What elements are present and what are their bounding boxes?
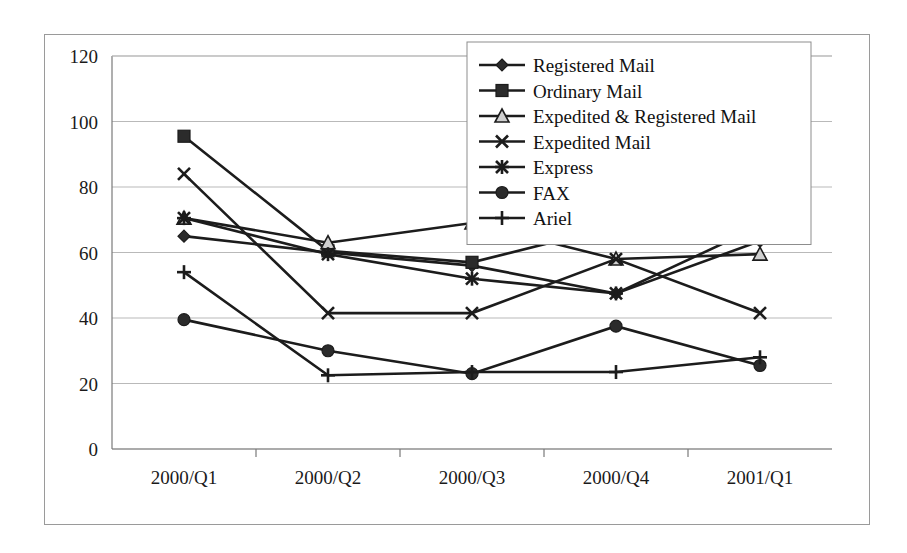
legend-label: Ordinary Mail bbox=[533, 81, 642, 102]
y-tick-label: 80 bbox=[79, 177, 98, 198]
line-chart: 0204060801001202000/Q12000/Q22000/Q32000… bbox=[0, 0, 907, 553]
data-point bbox=[609, 286, 623, 300]
chart-legend: Registered MailOrdinary MailExpedited & … bbox=[467, 42, 811, 245]
x-tick-label: 2001/Q1 bbox=[727, 467, 794, 488]
data-point bbox=[178, 168, 190, 180]
data-point bbox=[177, 211, 191, 225]
data-point bbox=[178, 230, 190, 242]
legend-label: FAX bbox=[533, 183, 570, 204]
y-tick-label: 60 bbox=[79, 243, 98, 264]
data-point bbox=[178, 314, 190, 326]
legend-marker-circle bbox=[496, 187, 508, 199]
y-tick-label: 0 bbox=[89, 439, 99, 460]
legend-label: Expedited & Registered Mail bbox=[533, 106, 756, 127]
x-tick-label: 2000/Q2 bbox=[295, 467, 362, 488]
y-tick-label: 40 bbox=[79, 308, 98, 329]
legend-marker-star bbox=[495, 160, 509, 174]
x-axis-labels: 2000/Q12000/Q22000/Q32000/Q42001/Q1 bbox=[151, 449, 794, 488]
x-tick-label: 2000/Q3 bbox=[439, 467, 506, 488]
y-tick-label: 120 bbox=[70, 46, 99, 67]
legend-label: Express bbox=[533, 157, 593, 178]
data-point bbox=[609, 365, 623, 379]
data-point bbox=[466, 256, 478, 268]
legend-marker-square bbox=[496, 85, 508, 97]
legend-label: Expedited Mail bbox=[533, 132, 651, 153]
legend-label: Ariel bbox=[533, 208, 572, 229]
data-point bbox=[465, 272, 479, 286]
series-line bbox=[184, 272, 760, 375]
y-tick-label: 100 bbox=[70, 112, 99, 133]
legend-label: Registered Mail bbox=[533, 55, 655, 76]
data-point bbox=[321, 247, 335, 261]
chart-figure: 0204060801001202000/Q12000/Q22000/Q32000… bbox=[0, 0, 907, 553]
data-point bbox=[178, 130, 190, 142]
x-tick-label: 2000/Q1 bbox=[151, 467, 218, 488]
data-point bbox=[754, 307, 766, 319]
data-point bbox=[322, 345, 334, 357]
data-point bbox=[610, 320, 622, 332]
y-tick-label: 20 bbox=[79, 374, 98, 395]
x-tick-label: 2000/Q4 bbox=[583, 467, 650, 488]
